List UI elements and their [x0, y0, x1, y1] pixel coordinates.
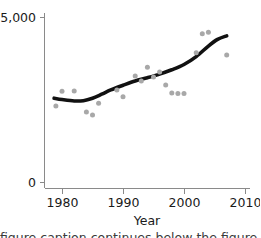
x-tick-label-2000: 2000 — [169, 195, 201, 210]
x-tick-label-1990: 1990 — [108, 195, 140, 210]
caption-cutoff-text: figure caption continues below the figur… — [0, 231, 260, 238]
data-point — [182, 91, 187, 96]
data-point — [151, 75, 156, 80]
data-point — [90, 113, 95, 118]
data-point — [139, 79, 144, 84]
data-point — [200, 31, 205, 36]
data-point — [175, 91, 180, 96]
x-axis-group: 1980199020002010 Year — [45, 189, 261, 229]
data-point — [206, 30, 211, 35]
data-point — [96, 101, 101, 106]
data-point — [53, 104, 58, 109]
x-tick-labels: 1980199020002010 — [47, 195, 260, 210]
x-axis-title: Year — [133, 213, 161, 228]
data-point — [163, 82, 168, 87]
data-point — [194, 50, 199, 55]
data-point — [157, 70, 162, 75]
data-point — [60, 89, 65, 94]
trend-line — [54, 36, 227, 101]
x-tick-label-2010: 2010 — [230, 195, 260, 210]
data-point — [121, 94, 126, 99]
data-point — [133, 74, 138, 79]
data-point — [169, 90, 174, 95]
x-tick-label-1980: 1980 — [47, 195, 79, 210]
y-tick-label-top: $5,000 — [0, 10, 36, 25]
data-point — [114, 87, 119, 92]
data-point — [145, 65, 150, 70]
data-point — [84, 110, 89, 115]
data-points — [53, 30, 229, 118]
y-tick-label-bottom: 0 — [28, 175, 36, 190]
x-tick-marks — [63, 189, 246, 195]
scatter-plot-canvas: $5,000 0 1980199020002010 Year — [0, 0, 260, 238]
y-axis-group: $5,000 0 — [0, 10, 45, 190]
data-point — [224, 52, 229, 57]
data-point — [72, 88, 77, 93]
chart-figure: $5,000 0 1980199020002010 Year figure ca… — [0, 0, 260, 238]
